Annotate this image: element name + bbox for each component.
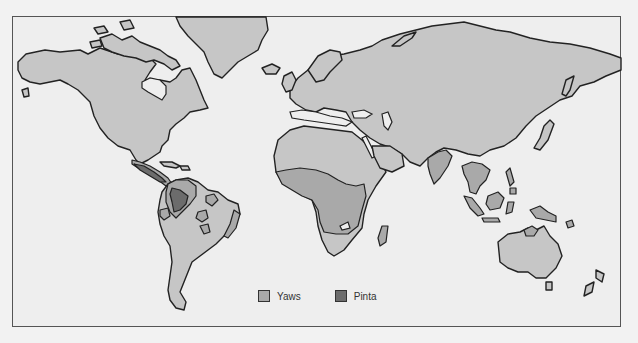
legend-item-yaws: Yaws xyxy=(258,290,301,302)
sumatra-yaws xyxy=(464,196,484,216)
arctic-island-small xyxy=(90,40,102,48)
arctic-island-small-3 xyxy=(120,20,134,30)
map-figure: Yaws Pinta xyxy=(0,0,638,343)
aleutian-island xyxy=(22,88,29,97)
sulawesi-yaws xyxy=(506,202,514,214)
borneo-yaws xyxy=(486,192,504,210)
iceland xyxy=(262,64,280,74)
tasmania xyxy=(546,282,552,290)
madagascar xyxy=(378,226,388,246)
new-zealand-south xyxy=(584,282,594,296)
java-yaws xyxy=(482,218,500,222)
arctic-island-small-2 xyxy=(94,26,108,34)
yaws-swatch xyxy=(258,290,270,302)
legend-item-pinta: Pinta xyxy=(335,290,377,302)
japan xyxy=(534,120,554,150)
pacific-islands-yaws xyxy=(566,220,574,228)
new-zealand-north xyxy=(596,270,604,282)
hispaniola xyxy=(180,166,190,170)
legend-label-yaws: Yaws xyxy=(277,291,301,302)
new-guinea-yaws xyxy=(530,206,556,222)
philippines-yaws-2 xyxy=(510,188,516,194)
philippines-yaws xyxy=(506,168,514,186)
legend-label-pinta: Pinta xyxy=(354,291,377,302)
southeast-asia-yaws xyxy=(462,162,490,194)
pinta-swatch xyxy=(335,290,347,302)
legend: Yaws Pinta xyxy=(258,290,411,302)
mediterranean-sea xyxy=(290,110,352,126)
cuba xyxy=(160,162,180,168)
